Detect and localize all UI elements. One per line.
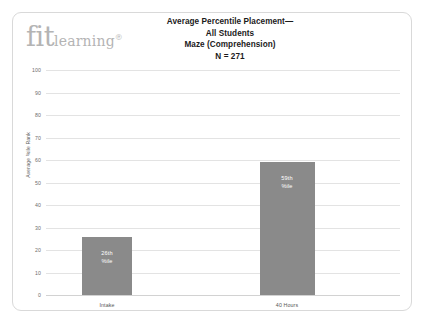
gridline-40 [46,205,400,206]
bar-value-label: 26th%ile [82,249,132,265]
bar-value-percentile: 59th [281,175,292,181]
plot-area: 1009080706050403020100 26th%ileIntake59t… [46,70,400,295]
y-axis-tick-label: 80 [35,112,41,118]
y-axis-tick-label: 20 [35,247,41,253]
gridline-0 [46,295,400,296]
y-axis-tick-label: 100 [32,67,41,73]
y-axis-tick-label: 0 [38,292,41,298]
bar-intake[interactable]: 26th%ile [82,237,132,296]
y-axis-label: Average %ile Rank [25,132,31,178]
gridline-30 [46,228,400,229]
logo-word-learning: learning [54,33,115,49]
gridline-90 [46,93,400,94]
chart-title-line-3: Maze (Comprehension) [120,39,340,51]
y-axis-tick-label: 10 [35,270,41,276]
chart-title-line-1: Average Percentile Placement— [120,16,340,28]
gridline-100 [46,70,400,71]
bar-40-hours[interactable]: 59th%ile [260,162,315,295]
slide-canvas: fitlearning® Average Percentile Placemen… [0,0,426,325]
x-axis-tick-label: 40 Hours [247,302,327,308]
bar-value-label: 59th%ile [260,174,315,190]
chart-title-line-4: N = 271 [120,51,340,63]
y-axis-tick-label: 50 [35,180,41,186]
y-axis-tick-label: 90 [35,90,41,96]
gridline-50 [46,183,400,184]
bar-value-unit: %ile [260,182,315,190]
y-axis-tick-label: 40 [35,202,41,208]
gridline-70 [46,138,400,139]
gridline-60 [46,160,400,161]
y-axis-tick-label: 70 [35,135,41,141]
chart-title: Average Percentile Placement— All Studen… [120,16,340,62]
bar-value-percentile: 26th [101,250,112,256]
bar-value-unit: %ile [82,257,132,265]
y-axis-tick-label: 60 [35,157,41,163]
x-axis-tick-label: Intake [67,302,147,308]
chart-title-line-2: All Students [120,28,340,40]
logo-word-fit: fit [26,21,54,52]
y-axis-tick-label: 30 [35,225,41,231]
gridline-80 [46,115,400,116]
